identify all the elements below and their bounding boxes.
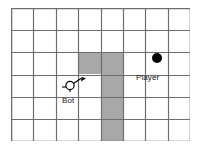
grid-cell[interactable] — [168, 30, 190, 52]
grid-cell[interactable] — [56, 30, 78, 52]
grid-cell[interactable] — [56, 119, 78, 141]
grid-cell[interactable] — [33, 8, 55, 30]
grid-cell[interactable] — [101, 52, 123, 74]
grid-cell[interactable] — [78, 8, 100, 30]
grid-cell[interactable] — [33, 52, 55, 74]
bot-marker[interactable] — [62, 76, 88, 92]
grid-cell[interactable] — [33, 30, 55, 52]
grid-cell[interactable] — [168, 119, 190, 141]
grid-cell[interactable] — [33, 97, 55, 119]
grid-cell[interactable] — [11, 97, 33, 119]
grid-cell[interactable] — [11, 30, 33, 52]
grid-cell[interactable] — [145, 97, 167, 119]
grid-cell[interactable] — [123, 8, 145, 30]
grid-cell[interactable] — [168, 8, 190, 30]
grid-cell[interactable] — [56, 52, 78, 74]
grid-cell[interactable] — [123, 119, 145, 141]
grid-cell[interactable] — [78, 97, 100, 119]
grid-cell[interactable] — [145, 30, 167, 52]
grid-cell[interactable] — [11, 52, 33, 74]
diagram-canvas: Bot Player — [0, 0, 201, 149]
grid-cell[interactable] — [78, 52, 100, 74]
grid-cell[interactable] — [33, 119, 55, 141]
grid-cell[interactable] — [11, 8, 33, 30]
grid-cell[interactable] — [33, 74, 55, 96]
grid-cell[interactable] — [123, 30, 145, 52]
grid-cell[interactable] — [101, 74, 123, 96]
grid-cell[interactable] — [78, 119, 100, 141]
player-marker[interactable] — [152, 53, 164, 65]
grid-cell[interactable] — [168, 52, 190, 74]
grid-cell[interactable] — [101, 97, 123, 119]
grid-cell[interactable] — [101, 8, 123, 30]
grid-cell[interactable] — [11, 74, 33, 96]
grid-cell[interactable] — [145, 119, 167, 141]
grid-cell[interactable] — [11, 119, 33, 141]
grid-cell[interactable] — [78, 30, 100, 52]
grid-cell[interactable] — [123, 97, 145, 119]
grid-cell[interactable] — [145, 8, 167, 30]
grid-cell[interactable] — [101, 119, 123, 141]
grid-cell-layer — [11, 8, 190, 141]
grid — [11, 8, 190, 141]
player-dot-icon — [152, 53, 162, 63]
grid-cell[interactable] — [123, 52, 145, 74]
grid-cell[interactable] — [168, 97, 190, 119]
grid-cell[interactable] — [56, 8, 78, 30]
grid-cell[interactable] — [168, 74, 190, 96]
player-label: Player — [136, 73, 159, 82]
bot-label: Bot — [62, 96, 74, 105]
bot-icon — [62, 76, 88, 92]
grid-cell[interactable] — [101, 30, 123, 52]
